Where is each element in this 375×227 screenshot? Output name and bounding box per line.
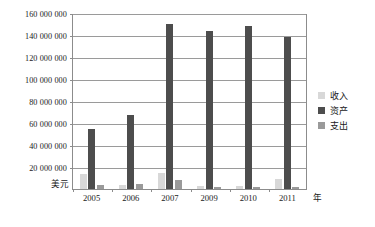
- legend-item[interactable]: 支出: [318, 118, 374, 133]
- bar-支出-2006[interactable]: [136, 184, 143, 190]
- x-axis-tick-label: 2005: [83, 192, 100, 204]
- bar-收入-2007[interactable]: [158, 173, 165, 190]
- bar-支出-2010[interactable]: [253, 187, 260, 189]
- bar-group: [197, 15, 221, 189]
- legend-swatch-icon: [318, 92, 325, 99]
- y-axis-tick-label: 80 000 000: [0, 98, 67, 107]
- bar-收入-2010[interactable]: [236, 186, 243, 189]
- bar-收入-2006[interactable]: [119, 185, 126, 189]
- y-axis-tick-label: 20 000 000: [0, 164, 67, 173]
- y-axis-tick-label: 40 000 000: [0, 142, 67, 151]
- bar-支出-2005[interactable]: [97, 185, 104, 189]
- bar-资产-2007[interactable]: [166, 24, 173, 189]
- bar-资产-2009[interactable]: [206, 31, 213, 189]
- bar-收入-2005[interactable]: [80, 174, 87, 189]
- plot-area: [72, 14, 307, 190]
- bar-资产-2005[interactable]: [88, 129, 95, 190]
- y-axis-tick-label: 140 000 000: [0, 32, 67, 41]
- y-axis-tick-label: 120 000 000: [0, 54, 67, 63]
- x-axis-title: 年: [313, 192, 322, 204]
- bar-group: [158, 15, 182, 189]
- legend-swatch-icon: [318, 107, 325, 114]
- bar-资产-2010[interactable]: [245, 26, 252, 189]
- legend-label: 收入: [330, 91, 348, 101]
- x-axis-tick-label: 2009: [200, 192, 217, 204]
- bars-layer: [73, 15, 306, 189]
- x-axis-tick-label: 2007: [161, 192, 178, 204]
- y-axis-tick-label: 60 000 000: [0, 120, 67, 129]
- x-axis-tick-label: 2010: [240, 192, 257, 204]
- bar-资产-2006[interactable]: [127, 115, 134, 189]
- bar-支出-2007[interactable]: [175, 180, 182, 189]
- y-axis-tick-label: 160 000 000: [0, 10, 67, 19]
- bar-group: [80, 15, 104, 189]
- legend-swatch-icon: [318, 122, 325, 129]
- chart-legend: 收入资产支出: [318, 88, 374, 133]
- y-axis-tick-label: 100 000 000: [0, 76, 67, 85]
- bar-chart: 160 000 000140 000 000120 000 000100 000…: [0, 0, 375, 227]
- x-axis-tick-label: 2011: [279, 192, 296, 204]
- bar-group: [119, 15, 143, 189]
- bar-group: [275, 15, 299, 189]
- bar-收入-2011[interactable]: [275, 179, 282, 189]
- bar-支出-2011[interactable]: [292, 187, 299, 189]
- legend-item[interactable]: 收入: [318, 88, 374, 103]
- bar-支出-2009[interactable]: [214, 187, 221, 189]
- legend-item[interactable]: 资产: [318, 103, 374, 118]
- x-axis-tick-label: 2006: [122, 192, 139, 204]
- y-axis-title: 美元: [40, 178, 69, 190]
- legend-label: 支出: [330, 121, 348, 131]
- legend-label: 资产: [330, 106, 348, 116]
- y-axis-tick-labels: 160 000 000140 000 000120 000 000100 000…: [0, 0, 67, 227]
- bar-group: [236, 15, 260, 189]
- bar-资产-2011[interactable]: [284, 37, 291, 189]
- x-axis-tick-labels: 200520062007200920102011: [72, 192, 307, 208]
- bar-收入-2009[interactable]: [197, 186, 204, 189]
